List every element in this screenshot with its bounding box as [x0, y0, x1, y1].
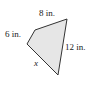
quadrilateral-shape	[27, 19, 67, 75]
side-label-x: x	[33, 58, 38, 68]
side-label-top: 8 in.	[39, 8, 55, 18]
side-label-right: 12 in.	[65, 42, 86, 52]
side-label-left: 6 in.	[5, 29, 21, 39]
quadrilateral-diagram: 8 in. 12 in. x 6 in.	[0, 0, 101, 90]
